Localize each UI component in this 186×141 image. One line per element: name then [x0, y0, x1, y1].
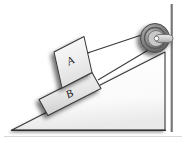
- pulley-center-pin: [154, 36, 159, 41]
- vertical-wall: [171, 4, 173, 132]
- pulley: [141, 24, 174, 53]
- physics-diagram-figure: B A Two stacked blocks on an inclined pl…: [0, 0, 186, 141]
- diagram-canvas: B A: [0, 0, 186, 141]
